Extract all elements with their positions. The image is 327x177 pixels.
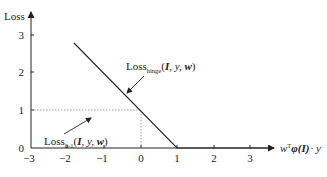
x-axis-title: wTφ(I)· y — [280, 142, 321, 155]
x-tick-neg3: −3 — [23, 152, 35, 164]
x-tick-1: 1 — [174, 152, 180, 164]
hinge-loss-line — [74, 43, 274, 148]
zero-one-loss-label: Loss0-1(I, y, w) — [44, 135, 108, 149]
y-tick-1: 1 — [19, 104, 25, 116]
y-axis-title: Loss — [4, 10, 25, 22]
hinge-annotation-arrow — [127, 76, 144, 93]
x-tick-2: 2 — [211, 152, 217, 164]
zero-one-annotation-arrow — [64, 118, 91, 134]
y-tick-2: 2 — [19, 66, 25, 78]
x-tick-3: 3 — [247, 152, 253, 164]
x-tick-neg2: −2 — [59, 152, 71, 164]
x-tick-0: 0 — [138, 152, 144, 164]
y-tick-3: 3 — [19, 29, 25, 41]
loss-chart: 3 2 1 0 −3 −2 −1 0 1 2 3 Loss wTφ(I)· y … — [0, 0, 327, 177]
hinge-loss-label: Losshinge(I, y, w) — [126, 60, 196, 74]
x-tick-neg1: −1 — [96, 152, 108, 164]
